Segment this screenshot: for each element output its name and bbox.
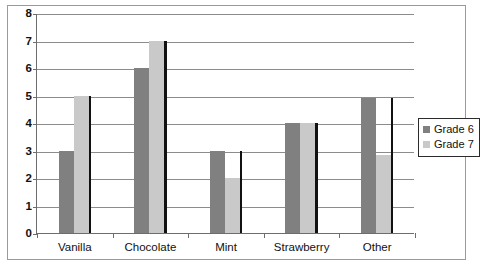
x-axis-label-chocolate: Chocolate <box>124 242 176 254</box>
x-tick-mark <box>188 233 189 238</box>
y-tick-label: 3 <box>26 146 32 158</box>
bar-grade-7 <box>225 178 240 233</box>
legend-item: Grade 7 <box>423 137 474 152</box>
x-tick-mark <box>415 233 416 238</box>
bar-shadow-edge <box>391 98 394 233</box>
y-tick-label: 2 <box>26 173 32 185</box>
bar-group <box>59 14 92 233</box>
legend-swatch-icon <box>423 126 430 133</box>
bar-grade-7 <box>74 96 89 234</box>
bar-shadow-edge <box>89 96 92 234</box>
bar-grade-7 <box>376 155 391 233</box>
y-tick-label: 1 <box>26 201 32 213</box>
chart-legend: Grade 6Grade 7 <box>418 118 480 157</box>
bar-grade-6 <box>59 151 74 234</box>
x-axis-label-vanilla: Vanilla <box>58 242 92 254</box>
bar-grade-6 <box>361 98 376 233</box>
legend-swatch-icon <box>423 141 430 148</box>
bar-grade-7 <box>300 123 315 233</box>
x-tick-mark <box>339 233 340 238</box>
x-axis-label-mint: Mint <box>215 242 237 254</box>
legend-item: Grade 6 <box>423 122 474 137</box>
y-tick-label: 0 <box>26 228 32 240</box>
y-tick-label: 7 <box>26 36 32 48</box>
bar-shadow-edge <box>315 123 318 233</box>
legend-label: Grade 7 <box>434 139 474 150</box>
bar-group <box>361 14 394 233</box>
bar-group <box>134 14 167 233</box>
bar-grade-7 <box>149 41 164 234</box>
figure-frame: 012345678 VanillaChocolateMintStrawberry… <box>7 5 466 260</box>
x-tick-mark <box>113 233 114 238</box>
bar-grade-6 <box>134 68 149 233</box>
x-axis-label-strawberry: Strawberry <box>274 242 330 254</box>
y-tick-label: 4 <box>26 118 32 130</box>
legend-label: Grade 6 <box>434 124 474 135</box>
bar-group <box>210 14 243 233</box>
plot-area: 012345678 VanillaChocolateMintStrawberry… <box>36 14 414 234</box>
bar-grade-6 <box>285 123 300 233</box>
y-tick-label: 8 <box>26 8 32 20</box>
x-tick-mark <box>37 233 38 238</box>
bars-layer <box>37 14 414 233</box>
bar-shadow-edge <box>240 151 243 234</box>
y-tick-label: 5 <box>26 91 32 103</box>
x-axis-label-other: Other <box>363 242 392 254</box>
bar-group <box>285 14 318 233</box>
y-tick-label: 6 <box>26 63 32 75</box>
x-tick-mark <box>264 233 265 238</box>
bar-grade-6 <box>210 151 225 234</box>
bar-shadow-edge <box>164 41 167 234</box>
